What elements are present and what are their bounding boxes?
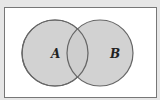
set-a-label: A: [50, 47, 60, 61]
venn-diagram: A B: [0, 0, 160, 100]
set-b-circle: [67, 20, 133, 86]
set-b-label: B: [109, 47, 120, 61]
